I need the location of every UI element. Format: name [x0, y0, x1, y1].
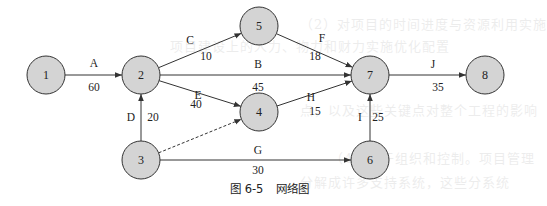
node-label: 8 — [482, 68, 488, 82]
node-label: 2 — [138, 68, 144, 82]
node-label: 5 — [256, 19, 262, 33]
activity-label: G — [254, 144, 262, 156]
duration-label: 20 — [147, 111, 159, 123]
duration-label: 15 — [309, 105, 321, 117]
dummy-activity-arrow — [159, 119, 242, 153]
node-label: 1 — [43, 68, 49, 82]
node-1: 1 — [27, 56, 65, 94]
duration-label: 18 — [309, 50, 321, 62]
node-3: 3 — [122, 141, 160, 179]
node-label: 7 — [367, 68, 373, 82]
node-label: 6 — [367, 153, 373, 167]
node-label: 3 — [138, 153, 144, 167]
node-8: 8 — [466, 56, 504, 94]
node-7: 7 — [351, 56, 389, 94]
node-2: 2 — [122, 56, 160, 94]
duration-label: 35 — [432, 81, 444, 93]
duration-label: 45 — [252, 81, 264, 93]
duration-label: 25 — [372, 111, 384, 123]
activity-label: F — [319, 32, 325, 44]
node-6: 6 — [351, 141, 389, 179]
activity-label: C — [186, 34, 194, 46]
activity-label: D — [127, 111, 135, 123]
duration-label: 30 — [252, 164, 264, 176]
activity-label: A — [90, 57, 99, 69]
nodes: 12345678 — [27, 7, 504, 179]
activity-label: B — [254, 58, 262, 70]
activity-label: I — [358, 111, 362, 123]
node-label: 4 — [256, 105, 262, 119]
node-4: 4 — [240, 93, 278, 131]
activity-label: H — [307, 91, 315, 103]
caption-title: 网络图 — [276, 182, 309, 196]
figure-caption: 图 6-5 网络图 — [230, 182, 309, 196]
duration-label: 60 — [88, 81, 100, 93]
caption-number: 图 6-5 — [230, 182, 263, 196]
node-5: 5 — [240, 7, 278, 45]
duration-label: 40 — [190, 98, 202, 110]
duration-label: 10 — [200, 50, 212, 62]
activity-label: J — [431, 58, 436, 70]
